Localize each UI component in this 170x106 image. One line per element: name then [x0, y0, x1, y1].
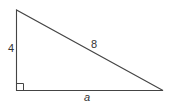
label-hypotenuse: 8 [91, 38, 97, 50]
triangle-diagram: 4 8 a [0, 0, 170, 106]
label-horizontal-leg: a [84, 91, 90, 103]
right-triangle [17, 10, 164, 91]
label-vertical-leg: 4 [8, 42, 14, 54]
right-angle-marker [17, 84, 24, 91]
